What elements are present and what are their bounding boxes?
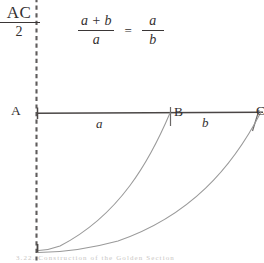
equation-left-denominator: a: [90, 31, 103, 49]
segment-label-b: b: [202, 116, 209, 129]
baseline-segment: [37, 112, 263, 113]
arc-radius-ab: [39, 113, 171, 251]
point-label-a: A: [11, 104, 21, 118]
golden-ratio-equation: a + b a = a b: [78, 12, 164, 48]
equation-left-fraction: a + b a: [78, 12, 114, 48]
ac-over-two-numerator: AC: [0, 4, 41, 22]
equation-right-numerator: a: [146, 12, 159, 30]
ac-over-two-label: AC 2: [0, 4, 41, 39]
figure-caption: 3.22. Construction of the Golden Section: [16, 255, 175, 263]
equation-right-denominator: b: [146, 31, 159, 49]
equation-left-numerator: a + b: [78, 12, 114, 30]
equals-sign: =: [123, 24, 132, 37]
segment-label-a: a: [96, 117, 103, 130]
arc-radius-ac: [39, 112, 262, 253]
ac-over-two-denominator: 2: [0, 23, 41, 39]
point-label-b: B: [174, 105, 183, 119]
golden-section-figure: AC 2 a + b a = a b A B C a b 3.22. Const…: [0, 0, 264, 263]
point-label-c: C: [256, 104, 264, 118]
equation-right-fraction: a b: [142, 12, 164, 48]
